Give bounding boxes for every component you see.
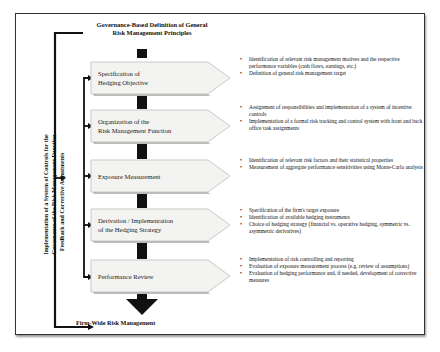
- down-arrow-icon: [126, 299, 158, 315]
- step-performance-review: Performance Review: [90, 259, 230, 293]
- bullets-hedging-strategy: Specification of the firm's target expos…: [238, 207, 423, 235]
- bullets-organization: Assignment of responsibilities and imple…: [238, 104, 423, 132]
- top-title: Governance-Based Definition of General R…: [92, 21, 212, 37]
- feedback-side-label: Feedback and Corrective Adjustments: [59, 127, 67, 277]
- bullets-performance-review: Implementation of risk controlling and r…: [238, 256, 423, 284]
- bullets-hedging-objective: Identification of relevant risk manageme…: [238, 56, 423, 77]
- step-hedging-objective: Specification ofHedging Objective: [90, 61, 230, 95]
- step-hedging-strategy: Derivation / Implementationof the Hedgin…: [90, 208, 230, 242]
- step-exposure-measurement: Exposure Measurement: [90, 159, 230, 193]
- outer-side-label: Implementation of a System of Controls f…: [43, 110, 58, 280]
- bottom-title: Firm-Wide Risk Management: [76, 319, 155, 326]
- bullets-exposure-measurement: Identification of relevant risk factors …: [238, 157, 423, 171]
- step-organization: Organization of theRisk Management Funct…: [90, 109, 230, 143]
